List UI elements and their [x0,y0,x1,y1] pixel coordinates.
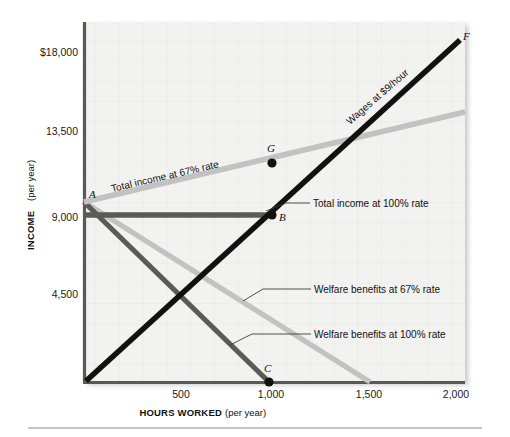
y-tick-label-4500: 4,500 [52,288,78,300]
x-axis-title-bold: HOURS WORKED [139,407,222,418]
data-point-G [267,158,276,167]
point-label-B: B [279,211,286,223]
point-label-G: G [267,142,275,154]
y-axis-title-bold: INCOME [25,211,36,250]
x-tick-label-2000: 2,000 [443,388,469,400]
y-axis-title-normal: (per year) [25,160,36,201]
x-tick-label-1500: 1,500 [356,388,382,400]
data-point-B [267,210,276,219]
y-tick-label-18000: $18,000 [40,46,78,58]
x-axis-title: HOURS WORKED (per year) [139,407,266,418]
x-tick-label-1000: 1,000 [258,388,284,400]
income-vs-hours-worked-chart: A B C G F Total income at 67% rate Wages… [0,0,510,437]
y-axis-title: INCOME (per year) [25,160,36,250]
point-label-A: A [88,188,96,200]
y-tick-label-13500: 13,500 [46,125,78,137]
data-point-C [264,377,273,386]
figure-container: A B C G F Total income at 67% rate Wages… [0,0,510,437]
x-axis-title-normal: (per year) [225,407,266,418]
x-tick-label-500: 500 [172,388,190,400]
series-label-welfare-benefits-67: Welfare benefits at 67% rate [314,284,440,295]
point-label-F: F [462,30,470,42]
series-label-total-income-100: Total income at 100% rate [313,198,429,209]
y-tick-label-9000: 9,000 [52,211,78,223]
point-label-C: C [264,362,272,374]
series-label-welfare-benefits-100: Welfare benefits at 100% rate [314,329,446,340]
